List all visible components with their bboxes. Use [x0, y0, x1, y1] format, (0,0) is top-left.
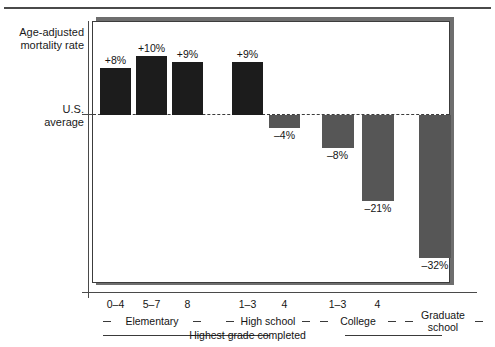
x-caption-rule-right: [345, 335, 442, 336]
group-rule-college-right: [388, 321, 396, 322]
chart-figure: Age-adjusted mortality rate U.S. average…: [0, 0, 495, 347]
bar-elementary-5-7: [136, 56, 167, 115]
value-label-high-school-4: –4%: [264, 130, 305, 141]
xtick-high-school-4: 4: [264, 298, 305, 310]
xtick-college-4: 4: [357, 298, 398, 310]
group-label-elementary: Elementary: [113, 316, 191, 327]
baseline-label-line2: average: [6, 116, 84, 129]
group-rule-graduate-school-right: [475, 321, 483, 322]
group-rule-high-school-right: [302, 321, 310, 322]
group-rule-graduate-school-left: [405, 321, 413, 322]
x-axis-line: [82, 292, 477, 293]
x-axis-origin-tick: [88, 286, 89, 298]
baseline-label: U.S. average: [6, 103, 84, 129]
y-axis-label-line2: mortality rate: [6, 39, 84, 52]
group-rule-college-left: [320, 321, 328, 322]
value-label-graduate-school: –32%: [413, 260, 457, 271]
value-label-elementary-0-4: +8%: [95, 55, 136, 66]
value-label-elementary-5-7: +10%: [131, 43, 172, 54]
bar-college-1-3: [322, 115, 354, 148]
group-label-high-school: High school: [236, 316, 300, 327]
baseline-label-line1: U.S.: [6, 103, 84, 116]
value-label-elementary-8: +9%: [167, 49, 208, 60]
group-rule-high-school-left: [226, 321, 234, 322]
value-label-college-1-3: –8%: [317, 150, 358, 161]
bar-graduate-school: [419, 115, 451, 258]
group-rule-elementary-right: [193, 321, 201, 322]
bar-high-school-1-3: [232, 62, 263, 115]
y-axis-label-line1: Age-adjusted: [6, 26, 84, 39]
xtick-elementary-0-4: 0–4: [95, 298, 136, 310]
group-label-college: College: [330, 316, 386, 327]
bar-elementary-0-4: [100, 68, 131, 115]
value-label-high-school-1-3: +9%: [227, 49, 268, 60]
xtick-elementary-5-7: 5–7: [131, 298, 172, 310]
y-axis-line: [88, 21, 89, 297]
xtick-high-school-1-3: 1–3: [227, 298, 268, 310]
value-label-college-4: –21%: [356, 203, 400, 214]
top-divider-rule: [4, 7, 491, 9]
xtick-elementary-8: 8: [167, 298, 208, 310]
group-rule-elementary-left: [103, 321, 111, 322]
y-axis-label: Age-adjusted mortality rate: [6, 26, 84, 52]
group-label-graduate-school-line1: Graduate: [413, 310, 473, 322]
bar-college-4: [362, 115, 394, 201]
xtick-college-1-3: 1–3: [317, 298, 358, 310]
bar-elementary-8: [172, 62, 203, 115]
bar-high-school-4: [269, 115, 300, 128]
